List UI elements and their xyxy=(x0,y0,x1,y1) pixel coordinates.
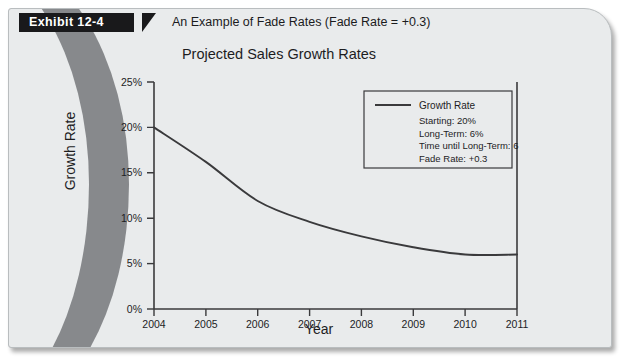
exhibit-caption: An Example of Fade Rates (Fade Rate = +0… xyxy=(172,13,430,32)
exhibit-header: Exhibit 12-4 An Example of Fade Rates (F… xyxy=(9,9,611,35)
y-tick-label: 15% xyxy=(121,166,142,178)
y-tick-label: 5% xyxy=(127,257,142,269)
legend-annotation: Fade Rate: +0.3 xyxy=(419,153,487,164)
x-tick-label: 2007 xyxy=(298,318,322,330)
exhibit-badge-tail-icon xyxy=(142,13,156,32)
x-tick-label: 2009 xyxy=(402,318,426,330)
chart-plot: 0% 5% 10% 15% 20% 25% xyxy=(29,35,604,345)
y-tick-label: 25% xyxy=(121,76,142,88)
x-tick-label: 2011 xyxy=(506,318,529,330)
y-axis-ticks xyxy=(147,82,154,309)
x-axis-tick-labels: 2004 2005 2006 2007 2008 2009 2010 2011 xyxy=(142,318,528,330)
x-tick-label: 2006 xyxy=(246,318,270,330)
chart-container: Projected Sales Growth Rates Growth Rate… xyxy=(29,35,604,345)
legend-annotation: Time until Long-Term: 6 xyxy=(419,140,518,151)
y-tick-label: 10% xyxy=(121,212,142,224)
x-tick-label: 2005 xyxy=(194,318,218,330)
exhibit-number-badge: Exhibit 12-4 xyxy=(19,13,134,32)
legend-series-label: Growth Rate xyxy=(419,100,476,111)
exhibit-panel: Exhibit 12-4 An Example of Fade Rates (F… xyxy=(8,8,612,348)
x-tick-label: 2008 xyxy=(350,318,374,330)
x-axis-ticks xyxy=(154,309,517,316)
exhibit-figure: Exhibit 12-4 An Example of Fade Rates (F… xyxy=(0,0,625,363)
y-tick-label: 0% xyxy=(127,303,142,315)
x-tick-label: 2010 xyxy=(453,318,477,330)
legend-annotation: Long-Term: 6% xyxy=(419,128,484,139)
legend-annotation: Starting: 20% xyxy=(419,115,477,126)
y-axis-tick-labels: 0% 5% 10% 15% 20% 25% xyxy=(121,76,142,315)
y-tick-label: 20% xyxy=(121,121,142,133)
chart-legend: Growth Rate Starting: 20% Long-Term: 6% … xyxy=(364,91,518,168)
x-tick-label: 2004 xyxy=(142,318,166,330)
